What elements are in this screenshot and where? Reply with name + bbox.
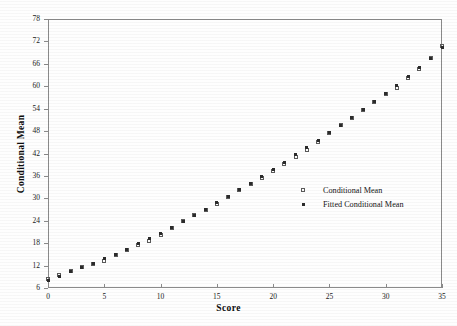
data-point [148, 237, 151, 240]
data-point [204, 208, 207, 211]
x-tick-label: 10 [151, 292, 171, 301]
legend-label-conditional-mean: Conditional Mean [323, 186, 382, 195]
data-point [215, 201, 218, 204]
data-point [441, 46, 444, 49]
data-point [339, 124, 342, 127]
x-tick-label: 30 [376, 292, 396, 301]
chart-legend: Conditional Mean Fitted Conditional Mean [296, 183, 404, 211]
data-point [103, 257, 106, 260]
data-point [114, 253, 117, 256]
data-point [429, 57, 432, 60]
filled-square-marker-icon [296, 203, 310, 206]
legend-item-conditional-mean: Conditional Mean [296, 183, 404, 197]
data-point [193, 214, 196, 217]
open-square-marker-icon [296, 188, 310, 192]
y-tick-mark [44, 288, 48, 289]
data-point [350, 116, 353, 119]
x-tick-label: 25 [319, 292, 339, 301]
y-axis-title: Conditional Mean [16, 114, 26, 192]
x-tick-label: 5 [94, 292, 114, 301]
data-point [80, 266, 83, 269]
data-point [170, 226, 173, 229]
data-point [227, 195, 230, 198]
data-point [407, 75, 410, 78]
data-point [294, 153, 297, 156]
data-point [317, 139, 320, 142]
data-point [238, 188, 241, 191]
x-tick-label: 20 [263, 292, 283, 301]
data-point [92, 262, 95, 265]
scatter-chart-figure: 6121824303642485460667278 05101520253035… [0, 0, 457, 326]
data-point [47, 279, 50, 282]
x-tick-label: 15 [207, 292, 227, 301]
data-point [328, 131, 331, 134]
data-point [137, 242, 140, 245]
data-point [373, 100, 376, 103]
data-point [305, 146, 308, 149]
data-point [260, 175, 263, 178]
x-axis-title: Score [0, 303, 457, 313]
x-tick-label: 35 [432, 292, 452, 301]
plot-area [48, 19, 442, 288]
data-point [159, 232, 162, 235]
data-point [125, 248, 128, 251]
data-point [249, 182, 252, 185]
legend-label-fitted-conditional-mean: Fitted Conditional Mean [323, 200, 404, 209]
data-point [58, 275, 61, 278]
data-point [272, 168, 275, 171]
data-point [283, 161, 286, 164]
y-axis-title-wrapper: Conditional Mean [14, 19, 28, 288]
x-tick-mark [442, 284, 443, 288]
data-point [418, 66, 421, 69]
legend-item-fitted-conditional-mean: Fitted Conditional Mean [296, 197, 404, 211]
data-point [182, 220, 185, 223]
data-point [395, 84, 398, 87]
data-point [384, 92, 387, 95]
data-point [362, 108, 365, 111]
data-point [69, 270, 72, 273]
x-tick-label: 0 [38, 292, 58, 301]
